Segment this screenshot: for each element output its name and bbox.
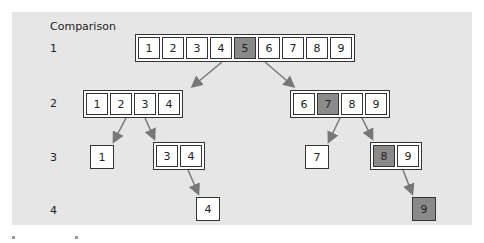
arrow-3b-to-4a [188,170,198,193]
footer-mark [75,236,78,239]
arrow-2a-to-3b [145,118,154,138]
arrow-2b-to-3c [329,118,340,141]
arrow-3d-to-4b [403,170,412,193]
arrow-2a-to-3a [114,118,126,141]
arrow-2b-to-3d [362,118,372,138]
arrow-1-to-2b [265,62,293,86]
arrow-1-to-2a [193,62,222,86]
footer-mark [12,236,15,239]
arrows [0,0,484,243]
